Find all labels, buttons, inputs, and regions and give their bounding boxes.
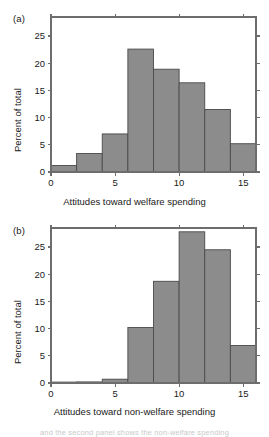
- panel-a-x-axis-label: Attitudes toward welfare spending: [0, 196, 269, 207]
- histogram-figure: (a) Percent of total 0510150510152025 At…: [0, 0, 269, 437]
- histogram-bar: [154, 69, 180, 172]
- y-tick-label: 25: [34, 30, 45, 41]
- panel-b: (b) Percent of total 0510150510152025 At…: [0, 216, 269, 422]
- x-tick-label: 10: [174, 177, 185, 188]
- histogram-bar: [230, 144, 256, 172]
- panel-b-plot-area: 0510150510152025: [0, 216, 269, 406]
- histogram-bar: [154, 281, 180, 383]
- x-tick-label: 5: [112, 388, 117, 399]
- y-tick-label: 0: [40, 166, 45, 177]
- page-text-fragment: and the second panel shows the non-welfa…: [0, 428, 269, 437]
- x-tick-label: 0: [48, 177, 53, 188]
- y-tick-label: 10: [34, 112, 45, 123]
- x-tick-label: 5: [112, 177, 117, 188]
- histogram-bar: [77, 154, 103, 172]
- histogram-bar: [230, 345, 256, 383]
- y-tick-label: 15: [34, 85, 45, 96]
- histogram-bar: [205, 109, 231, 172]
- histogram-bar: [179, 83, 205, 172]
- y-tick-label: 0: [40, 377, 45, 388]
- y-tick-label: 10: [34, 323, 45, 334]
- histogram-bar: [102, 134, 128, 172]
- y-tick-label: 20: [34, 269, 45, 280]
- panel-b-x-axis-label: Attitudes toward non-welfare spending: [0, 406, 269, 417]
- y-tick-label: 25: [34, 241, 45, 252]
- x-tick-label: 15: [238, 177, 249, 188]
- histogram-bar: [102, 379, 128, 383]
- x-tick-label: 0: [48, 388, 53, 399]
- panel-a-plot-area: 0510150510152025: [0, 0, 269, 195]
- panel-a: (a) Percent of total 0510150510152025 At…: [0, 0, 269, 216]
- x-tick-label: 15: [238, 388, 249, 399]
- y-tick-label: 5: [40, 350, 45, 361]
- histogram-bar: [179, 232, 205, 383]
- histogram-bar: [128, 49, 154, 172]
- y-tick-label: 20: [34, 58, 45, 69]
- y-tick-label: 15: [34, 296, 45, 307]
- histogram-bar: [51, 165, 77, 172]
- histogram-bar: [128, 328, 154, 383]
- x-tick-label: 10: [174, 388, 185, 399]
- y-tick-label: 5: [40, 139, 45, 150]
- histogram-bar: [205, 250, 231, 383]
